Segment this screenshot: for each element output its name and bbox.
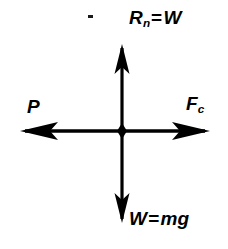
scan-speck-artifact bbox=[88, 15, 93, 18]
normal-reaction-value: W bbox=[163, 7, 181, 28]
normal-reaction-label: Rn=W bbox=[129, 8, 182, 27]
origin-node bbox=[117, 123, 127, 139]
normal-reaction-subscript: n bbox=[143, 16, 150, 29]
force-vectors-svg bbox=[0, 0, 228, 249]
centripetal-subscript: c bbox=[198, 102, 205, 115]
weight-value: mg bbox=[160, 208, 189, 229]
weight-equals: = bbox=[147, 208, 160, 229]
normal-reaction-equals: = bbox=[150, 7, 163, 28]
weight-label: W=mg bbox=[129, 209, 189, 228]
force-diagram: Rn=W W=mg P Fc bbox=[0, 0, 228, 249]
weight-symbol: W bbox=[129, 208, 147, 229]
centripetal-symbol: F bbox=[186, 93, 198, 114]
normal-reaction-symbol: R bbox=[129, 7, 143, 28]
push-symbol: P bbox=[27, 96, 40, 117]
centripetal-label: Fc bbox=[186, 94, 204, 113]
push-label: P bbox=[27, 97, 40, 116]
